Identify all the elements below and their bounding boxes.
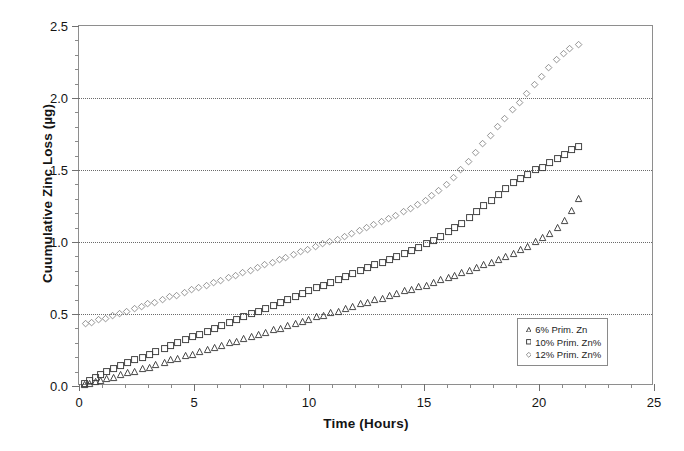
y-tick-minor — [75, 141, 79, 142]
x-tick-major — [539, 384, 540, 391]
x-tick-minor — [148, 384, 149, 388]
x-tick-minor — [470, 384, 471, 388]
zinc-loss-scatter-chart: Cuumulative Zinc Loss (µg) 0.00.51.01.52… — [0, 0, 684, 451]
y-tick-minor — [75, 156, 79, 157]
legend-label: 6% Prim. Zn — [535, 324, 587, 335]
legend-label: 12% Prim. Zn% — [535, 349, 601, 360]
x-tick-minor — [378, 384, 379, 388]
legend-square-marker-icon — [522, 339, 535, 345]
y-tick-label: 0.5 — [50, 307, 68, 322]
y-tick-label: 2.5 — [50, 19, 68, 34]
x-tick-minor — [516, 384, 517, 388]
y-tick-major — [72, 98, 79, 99]
x-tick-minor — [102, 384, 103, 388]
y-tick-label: 1.5 — [50, 163, 68, 178]
y-tick-minor — [75, 300, 79, 301]
y-tick-major — [72, 26, 79, 27]
x-tick-minor — [171, 384, 172, 388]
y-tick-major — [72, 314, 79, 315]
x-tick-minor — [562, 384, 563, 388]
x-tick-minor — [608, 384, 609, 388]
x-tick-major — [654, 384, 655, 391]
chart-legend: 6% Prim. Zn10% Prim. Zn%12% Prim. Zn% — [517, 318, 608, 366]
x-tick-label: 15 — [417, 395, 431, 410]
y-tick-minor — [75, 112, 79, 113]
x-tick-label: 20 — [532, 395, 546, 410]
y-tick-minor — [75, 357, 79, 358]
y-tick-minor — [75, 199, 79, 200]
x-tick-minor — [447, 384, 448, 388]
x-tick-label: 10 — [302, 395, 316, 410]
legend-item-2[interactable]: 12% Prim. Zn% — [522, 349, 601, 362]
y-tick-label: 0.0 — [50, 379, 68, 394]
y-tick-minor — [75, 40, 79, 41]
x-tick-label: 25 — [647, 395, 661, 410]
x-tick-minor — [263, 384, 264, 388]
x-tick-minor — [493, 384, 494, 388]
x-tick-minor — [355, 384, 356, 388]
y-tick-major — [72, 386, 79, 387]
y-tick-minor — [75, 84, 79, 85]
legend-diamond-marker-icon — [522, 352, 535, 358]
legend-item-1[interactable]: 10% Prim. Zn% — [522, 336, 601, 349]
gridline-y — [79, 170, 652, 171]
y-tick-label: 1.0 — [50, 235, 68, 250]
y-tick-minor — [75, 285, 79, 286]
y-tick-minor — [75, 127, 79, 128]
y-tick-minor — [75, 213, 79, 214]
x-tick-minor — [286, 384, 287, 388]
gridline-y — [79, 98, 652, 99]
x-tick-major — [194, 384, 195, 391]
y-tick-minor — [75, 55, 79, 56]
y-tick-major — [72, 242, 79, 243]
x-tick-minor — [125, 384, 126, 388]
y-tick-minor — [75, 271, 79, 272]
gridline-y — [79, 314, 652, 315]
x-tick-major — [424, 384, 425, 391]
x-tick-label: 0 — [75, 395, 82, 410]
y-tick-label: 2.0 — [50, 91, 68, 106]
x-tick-major — [79, 384, 80, 391]
legend-triangle-marker-icon — [522, 327, 535, 333]
y-tick-major — [72, 170, 79, 171]
y-tick-minor — [75, 328, 79, 329]
legend-item-0[interactable]: 6% Prim. Zn — [522, 323, 601, 336]
y-tick-minor — [75, 69, 79, 70]
x-tick-minor — [240, 384, 241, 388]
x-tick-minor — [585, 384, 586, 388]
x-tick-minor — [631, 384, 632, 388]
y-tick-minor — [75, 343, 79, 344]
x-tick-minor — [332, 384, 333, 388]
y-tick-minor — [75, 256, 79, 257]
gridline-y — [79, 242, 652, 243]
x-tick-major — [309, 384, 310, 391]
y-tick-minor — [75, 184, 79, 185]
y-tick-minor — [75, 228, 79, 229]
x-tick-minor — [217, 384, 218, 388]
x-axis-title: Time (Hours) — [78, 416, 654, 431]
legend-label: 10% Prim. Zn% — [535, 337, 601, 348]
x-tick-minor — [401, 384, 402, 388]
y-tick-minor — [75, 372, 79, 373]
x-tick-label: 5 — [190, 395, 197, 410]
plot-area: 0.00.51.01.52.02.505101520256% Prim. Zn1… — [78, 25, 653, 385]
